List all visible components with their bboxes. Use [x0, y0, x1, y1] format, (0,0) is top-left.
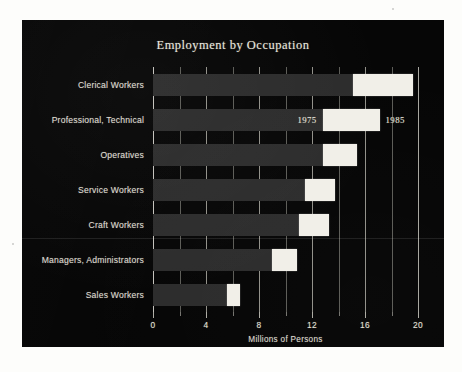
x-tick	[233, 312, 234, 316]
series-annotation-1985: 1985	[380, 109, 405, 131]
bar-1975	[153, 179, 305, 201]
slide-page: Employment by Occupation Clerical Worker…	[0, 0, 462, 372]
bar-row: Craft Workers	[153, 214, 418, 236]
category-label: Professional, Technical	[52, 109, 144, 131]
x-tick	[418, 312, 419, 318]
x-tick-label: 12	[307, 320, 317, 330]
x-tick	[339, 312, 340, 316]
x-tick-label: 20	[413, 320, 423, 330]
bar-1985	[227, 284, 240, 306]
bar-1985	[323, 144, 357, 166]
bar-1975	[153, 144, 323, 166]
bar-row: Sales Workers	[153, 284, 418, 306]
bar-1975	[153, 214, 299, 236]
category-label: Managers, Administrators	[42, 249, 144, 271]
x-tick-label: 0	[151, 320, 156, 330]
category-label: Operatives	[100, 144, 144, 166]
x-tick	[153, 312, 154, 318]
x-tick-label: 16	[360, 320, 370, 330]
bar-1985	[323, 109, 380, 131]
x-tick	[259, 312, 260, 318]
bar-row: Service Workers	[153, 179, 418, 201]
category-label: Service Workers	[78, 179, 144, 201]
plot-area: Clerical WorkersProfessional, Technical1…	[153, 67, 418, 312]
category-label: Clerical Workers	[78, 74, 144, 96]
bar-1975	[153, 284, 227, 306]
x-axis-title: Millions of Persons	[153, 335, 418, 344]
x-tick-label: 8	[257, 320, 262, 330]
bar-1975	[153, 249, 272, 271]
bar-row: Clerical Workers	[153, 74, 418, 96]
category-label: Sales Workers	[86, 284, 144, 306]
gridline	[418, 67, 419, 312]
x-tick	[180, 312, 181, 316]
x-tick	[312, 312, 313, 318]
bar-1985	[353, 74, 413, 96]
x-tick	[392, 312, 393, 316]
bar-1975	[153, 74, 353, 96]
x-tick-label: 4	[204, 320, 209, 330]
bar-1985	[272, 249, 297, 271]
chart-panel: Employment by Occupation Clerical Worker…	[22, 20, 444, 347]
x-tick	[365, 312, 366, 318]
x-tick	[286, 312, 287, 316]
category-label: Craft Workers	[89, 214, 144, 236]
x-tick	[206, 312, 207, 318]
chart-title: Employment by Occupation	[22, 38, 444, 53]
series-annotation-1975: 1975	[297, 109, 322, 131]
bar-row: Operatives	[153, 144, 418, 166]
page-speck	[12, 243, 14, 245]
bar-1985	[305, 179, 334, 201]
bar-1985	[299, 214, 329, 236]
page-speck	[392, 8, 394, 10]
bar-row: Managers, Administrators	[153, 249, 418, 271]
x-axis: Millions of Persons 048121620	[153, 312, 418, 347]
bar-row: Professional, Technical19751985	[153, 109, 418, 131]
